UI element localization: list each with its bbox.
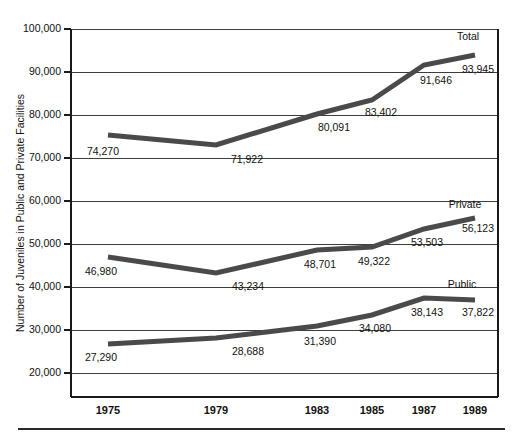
x-tick-label-1985: 1985: [360, 404, 384, 416]
x-tick-label-1975: 1975: [96, 404, 120, 416]
x-tick-label-1983: 1983: [305, 404, 329, 416]
y-tick-label-60000: 60,000: [29, 194, 61, 206]
series-line-public: [108, 298, 475, 344]
x-tick-label-1987: 1987: [412, 404, 436, 416]
chart-figure: Number of Juveniles in Public and Privat…: [0, 0, 518, 436]
value-label-public-1975: 27,290: [85, 351, 117, 363]
value-label-total-1975: 74,270: [87, 145, 119, 157]
line-chart: Number of Juveniles in Public and Privat…: [0, 0, 518, 436]
value-label-total-1987: 91,646: [420, 74, 452, 86]
y-tick-label-50000: 50,000: [29, 237, 61, 249]
y-axis-title: Number of Juveniles in Public and Privat…: [14, 94, 26, 332]
value-label-private-1987: 53,503: [411, 236, 443, 248]
series-label-private: Private: [449, 198, 482, 210]
value-label-total-1985: 83,402: [365, 106, 397, 118]
value-label-public-1989: 37,822: [462, 306, 494, 318]
y-tick-label-20000: 20,000: [29, 366, 61, 378]
value-label-public-1987: 38,143: [411, 306, 443, 318]
x-tick-label-1989: 1989: [463, 404, 487, 416]
value-label-private-1989: 56,123: [462, 222, 494, 234]
value-label-private-1985: 49,322: [358, 255, 390, 267]
y-tick-labels: 100,000 90,000 80,000 70,000 60,000 50,0…: [23, 22, 61, 378]
value-label-private-1979: 43,234: [232, 280, 264, 292]
series-line-total: [108, 55, 475, 145]
y-tick-label-100000: 100,000: [23, 22, 61, 34]
x-tick-label-1979: 1979: [204, 404, 228, 416]
value-label-public-1985: 34,080: [359, 322, 391, 334]
value-label-public-1983: 31,390: [304, 335, 336, 347]
value-labels-public: 27,290 28,688 31,390 34,080 38,143 37,82…: [85, 306, 494, 363]
value-label-total-1989: 93,945: [462, 63, 494, 75]
value-label-total-1983: 80,091: [318, 121, 350, 133]
series-label-public: Public: [448, 278, 477, 290]
series-label-total: Total: [457, 30, 479, 42]
y-tick-marks: [64, 29, 71, 373]
value-label-private-1983: 48,701: [304, 258, 336, 270]
y-tick-label-40000: 40,000: [29, 280, 61, 292]
y-tick-label-90000: 90,000: [29, 65, 61, 77]
y-tick-label-30000: 30,000: [29, 323, 61, 335]
value-label-private-1975: 46,980: [85, 265, 117, 277]
x-tick-labels: 1975 1979 1983 1985 1987 1989: [96, 404, 487, 416]
value-label-public-1979: 28,688: [232, 345, 264, 357]
y-tick-label-70000: 70,000: [29, 151, 61, 163]
value-labels-total: 74,270 71,922 80,091 83,402 91,646 93,94…: [87, 63, 494, 165]
y-tick-label-80000: 80,000: [29, 108, 61, 120]
value-label-total-1979: 71,922: [231, 153, 263, 165]
